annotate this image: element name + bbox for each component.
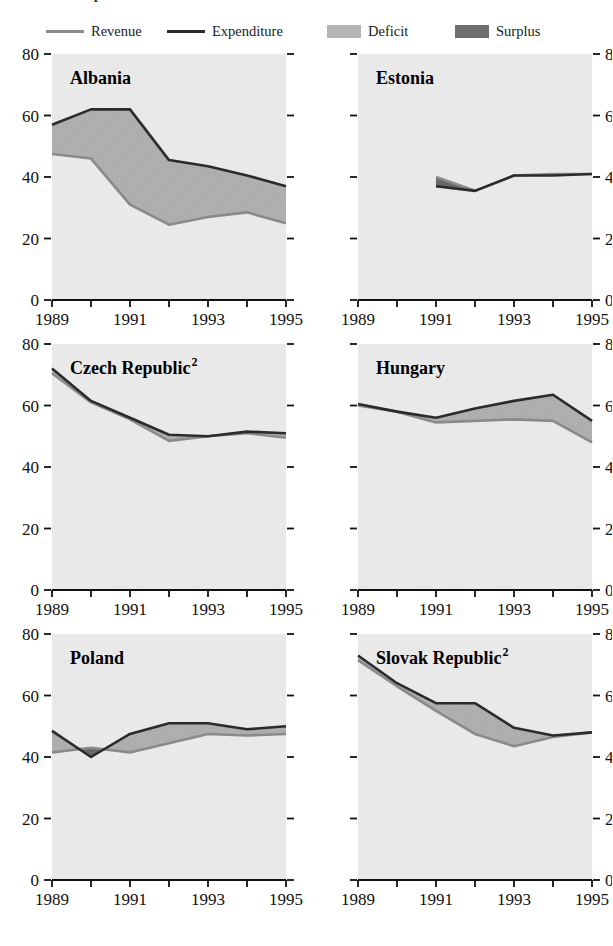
panel-hungary: 1989199119931995020406080Hungary: [306, 336, 612, 636]
legend-item-revenue: Revenue: [46, 18, 142, 44]
cut-off-caption-text: Fiscal Developments: [18, 0, 136, 3]
plot-background: [52, 344, 286, 590]
y-tick-label: 60: [605, 397, 612, 416]
y-tick-label: 20: [605, 520, 612, 539]
legend-label-expenditure: Expenditure: [212, 23, 283, 40]
legend-item-surplus: Surplus: [455, 18, 540, 44]
x-tick-label: 1991: [419, 310, 453, 329]
panel-title-superscript: 2: [503, 645, 509, 659]
y-tick-label: 20: [605, 230, 612, 249]
y-tick-label: 0: [605, 581, 612, 600]
x-tick-label: 1993: [497, 310, 531, 329]
y-tick-label: 80: [605, 46, 612, 64]
y-tick-label: 40: [605, 168, 612, 187]
y-tick-label: 40: [22, 168, 39, 187]
y-tick-label: 40: [605, 458, 612, 477]
legend-item-expenditure: Expenditure: [167, 18, 283, 44]
x-tick-label: 1991: [419, 890, 453, 909]
y-tick-label: 80: [22, 336, 39, 354]
y-tick-label: 60: [605, 107, 612, 126]
panel-title: Hungary: [376, 358, 445, 378]
x-tick-label: 1993: [497, 890, 531, 909]
y-tick-label: 0: [605, 291, 612, 310]
x-tick-label: 1989: [341, 890, 375, 909]
legend-line-expenditure: [167, 30, 205, 33]
x-tick-label: 1991: [113, 310, 147, 329]
y-tick-label: 60: [22, 107, 39, 126]
y-tick-label: 80: [22, 626, 39, 644]
y-tick-label: 20: [22, 520, 39, 539]
panel-czech-republic: 1989199119931995020406080Czech Republic2: [0, 336, 306, 636]
x-tick-label: 1993: [497, 600, 531, 619]
x-tick-label: 1995: [575, 310, 609, 329]
panel-title: Albania: [70, 68, 131, 88]
x-tick-label: 1989: [35, 310, 69, 329]
x-tick-label: 1993: [191, 310, 225, 329]
x-tick-label: 1993: [191, 890, 225, 909]
panel-title: Poland: [70, 648, 124, 668]
y-tick-label: 0: [605, 871, 612, 890]
y-tick-label: 20: [22, 810, 39, 829]
panel-estonia: 1989199119931995020406080Estonia: [306, 46, 612, 346]
y-tick-label: 60: [605, 687, 612, 706]
legend-line-revenue: [46, 30, 84, 33]
legend-swatch-deficit: [327, 25, 361, 38]
x-tick-label: 1995: [575, 600, 609, 619]
plot-background: [358, 634, 592, 880]
legend-item-deficit: Deficit: [327, 18, 408, 44]
x-tick-label: 1991: [419, 600, 453, 619]
x-tick-label: 1989: [35, 600, 69, 619]
y-tick-label: 60: [22, 687, 39, 706]
legend-swatch-surplus: [455, 25, 489, 38]
panel-title: Estonia: [376, 68, 434, 88]
legend-label-revenue: Revenue: [91, 23, 142, 40]
x-tick-label: 1993: [191, 600, 225, 619]
x-tick-label: 1989: [341, 600, 375, 619]
panel-poland: 1989199119931995020406080Poland: [0, 626, 306, 926]
x-tick-label: 1995: [269, 890, 303, 909]
x-tick-label: 1991: [113, 600, 147, 619]
y-tick-label: 20: [22, 230, 39, 249]
panel-slovak-republic: 1989199119931995020406080Slovak Republic…: [306, 626, 612, 926]
x-tick-label: 1989: [341, 310, 375, 329]
x-tick-label: 1995: [269, 310, 303, 329]
y-tick-label: 40: [605, 748, 612, 767]
plot-background: [52, 634, 286, 880]
y-tick-label: 80: [605, 336, 612, 354]
plot-background: [358, 344, 592, 590]
y-tick-label: 40: [22, 748, 39, 767]
panel-title: Czech Republic: [70, 358, 191, 378]
x-tick-label: 1995: [575, 890, 609, 909]
chart-legend: Revenue Expenditure Deficit Surplus: [0, 18, 613, 44]
panel-title-superscript: 2: [192, 355, 198, 369]
y-tick-label: 80: [22, 46, 39, 64]
x-tick-label: 1991: [113, 890, 147, 909]
y-tick-label: 20: [605, 810, 612, 829]
legend-label-surplus: Surplus: [496, 23, 540, 40]
y-tick-label: 40: [22, 458, 39, 477]
y-tick-label: 0: [31, 871, 40, 890]
legend-label-deficit: Deficit: [368, 23, 408, 40]
y-tick-label: 60: [22, 397, 39, 416]
cut-off-caption: Fiscal Developments: [0, 0, 613, 14]
y-tick-label: 0: [31, 291, 40, 310]
y-tick-label: 0: [31, 581, 40, 600]
panel-albania: 1989199119931995020406080Albania: [0, 46, 306, 346]
figure-root: Fiscal Developments Revenue Expenditure …: [0, 0, 613, 946]
y-tick-label: 80: [605, 626, 612, 644]
plot-background: [358, 54, 592, 300]
x-tick-label: 1995: [269, 600, 303, 619]
panel-grid: 1989199119931995020406080Albania19891991…: [0, 46, 613, 946]
x-tick-label: 1989: [35, 890, 69, 909]
panel-title: Slovak Republic: [376, 648, 502, 668]
